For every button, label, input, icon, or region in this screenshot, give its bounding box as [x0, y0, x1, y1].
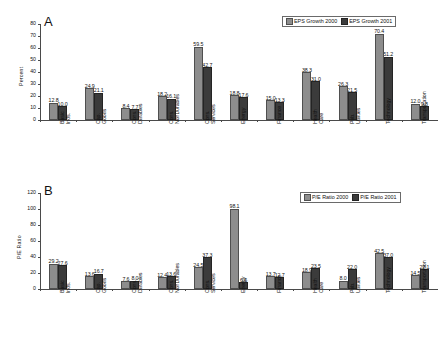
y-tick-label-6: 60 [24, 45, 36, 50]
x-category-label-1: Cap.Goods [96, 109, 108, 124]
bar-10-0 [411, 275, 420, 289]
x-tick-mark [257, 120, 258, 122]
y-tick-mark [38, 273, 40, 274]
bar-3-0 [158, 96, 167, 120]
x-category-label-4: Cons.Services [205, 104, 217, 124]
bar-1-0 [85, 88, 94, 120]
x-category-label-0: BasicInds. [60, 112, 72, 124]
y-tick-mark [38, 36, 40, 37]
bar-7-0 [302, 72, 311, 120]
x-category-label-1: Cap.Goods [96, 278, 108, 293]
x-tick-mark [112, 120, 113, 122]
y-axis-title-b: P/E Ratio [16, 235, 22, 259]
y-tick-label-5: 50 [24, 57, 36, 62]
y-tick-label-5: 100 [24, 206, 36, 211]
plot-area-b: 02040608010012029.227.6BasicInds.13.616.… [40, 193, 438, 289]
y-tick-mark [38, 60, 40, 61]
chart-panel-b: B P/E Ratio 2000 P/E Ratio 2001 P/E Rati… [0, 171, 446, 342]
x-category-label-7: HealthCare [313, 278, 325, 293]
x-tick-mark [185, 289, 186, 291]
x-tick-mark [329, 120, 330, 122]
bar-group-8 [339, 24, 357, 120]
bar-9-0 [375, 253, 384, 289]
y-tick-mark [38, 193, 40, 194]
y-tick-label-6: 120 [24, 190, 36, 195]
y-tick-label-7: 70 [24, 33, 36, 38]
bar-group-7 [302, 193, 320, 289]
bar-2-0 [121, 281, 130, 289]
y-tick-label-1: 10 [24, 105, 36, 110]
x-tick-mark [402, 120, 403, 122]
figure-root: A EPS Growth 2000 EPS Growth 2001 Percen… [0, 0, 446, 342]
y-tick-label-4: 80 [24, 222, 36, 227]
bar-7-0 [302, 272, 311, 289]
y-tick-mark [38, 96, 40, 97]
x-category-label-7: HealthCare [313, 109, 325, 124]
x-category-label-5: Energy [241, 108, 247, 124]
y-axis-line [40, 193, 41, 289]
x-category-label-4: Cons.Services [205, 273, 217, 293]
x-tick-mark [112, 289, 113, 291]
x-category-label-6: Finance [277, 106, 283, 124]
x-tick-mark [76, 120, 77, 122]
bar-9-0 [375, 34, 384, 120]
bar-8-0 [339, 86, 348, 120]
x-tick-mark [149, 120, 150, 122]
bar-0-0 [49, 264, 58, 289]
x-tick-mark [76, 289, 77, 291]
x-category-label-3: Cons.NonDurables [169, 263, 181, 293]
bar-group-8 [339, 193, 357, 289]
bar-2-0 [121, 108, 130, 120]
bar-group-5 [230, 24, 248, 120]
y-tick-mark [38, 24, 40, 25]
bar-6-0 [266, 276, 275, 289]
bar-10-0 [411, 104, 420, 120]
x-category-label-9: Technology [386, 267, 392, 293]
y-tick-label-4: 40 [24, 69, 36, 74]
y-tick-label-2: 40 [24, 254, 36, 259]
y-tick-mark [38, 72, 40, 73]
x-tick-mark [185, 120, 186, 122]
x-category-label-3: Cons.NonDurables [169, 94, 181, 124]
x-tick-mark [40, 120, 41, 122]
bar-group-5 [230, 193, 248, 289]
y-tick-label-2: 20 [24, 93, 36, 98]
x-category-label-6: Finance [277, 275, 283, 293]
y-axis-line [40, 24, 41, 120]
bar-8-0 [339, 281, 348, 289]
x-tick-mark [221, 289, 222, 291]
y-tick-mark [38, 48, 40, 49]
y-tick-label-0: 0 [24, 117, 36, 122]
x-category-label-8: Pub.Utilities [350, 108, 362, 124]
bar-group-0 [49, 193, 67, 289]
plot-area-a: 0102030405060708012.810.0BasicInds.24.92… [40, 24, 438, 120]
x-tick-mark [221, 120, 222, 122]
x-category-label-5: Energy [241, 277, 247, 293]
x-tick-mark [366, 120, 367, 122]
y-tick-mark [38, 257, 40, 258]
bar-5-0 [230, 209, 239, 289]
x-category-label-2: Cons.Durables [132, 104, 144, 124]
y-tick-mark [38, 84, 40, 85]
y-tick-mark [38, 108, 40, 109]
y-tick-mark [38, 209, 40, 210]
bar-5-0 [230, 95, 239, 120]
bar-group-1 [85, 24, 103, 120]
bar-3-0 [158, 277, 167, 289]
x-tick-mark [40, 289, 41, 291]
x-category-label-0: BasicInds. [60, 281, 72, 293]
x-category-label-2: Cons.Durables [132, 273, 144, 293]
x-tick-mark [402, 289, 403, 291]
x-tick-mark [366, 289, 367, 291]
bar-group-0 [49, 24, 67, 120]
y-tick-label-1: 20 [24, 270, 36, 275]
y-tick-label-3: 30 [24, 81, 36, 86]
y-tick-mark [38, 241, 40, 242]
x-tick-mark [329, 289, 330, 291]
x-category-label-10: Transportation [422, 260, 428, 293]
x-category-label-10: Transportation [422, 91, 428, 124]
x-tick-mark [257, 289, 258, 291]
x-tick-mark [293, 120, 294, 122]
y-tick-label-8: 80 [24, 21, 36, 26]
y-tick-label-3: 60 [24, 238, 36, 243]
